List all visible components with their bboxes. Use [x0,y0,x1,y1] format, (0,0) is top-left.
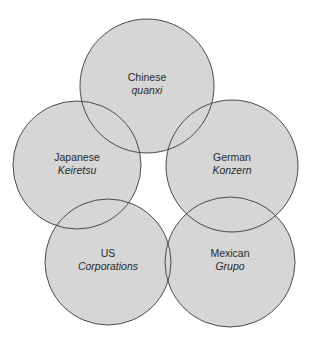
business-group-term: quanxi [87,84,207,97]
business-group-term: Keiretsu [17,164,137,177]
country-name: Japanese [17,151,137,164]
business-group-term: Konzern [172,164,292,177]
country-name: Mexican [170,247,290,260]
business-group-term: Corporations [48,260,168,273]
node-label-german: German Konzern [172,151,292,177]
country-name: German [172,151,292,164]
node-label-mexican: Mexican Grupo [170,247,290,273]
country-name: Chinese [87,71,207,84]
node-label-japanese: Japanese Keiretsu [17,151,137,177]
business-group-term: Grupo [170,260,290,273]
node-label-chinese: Chinese quanxi [87,71,207,97]
node-label-us: US Corporations [48,247,168,273]
country-name: US [48,247,168,260]
